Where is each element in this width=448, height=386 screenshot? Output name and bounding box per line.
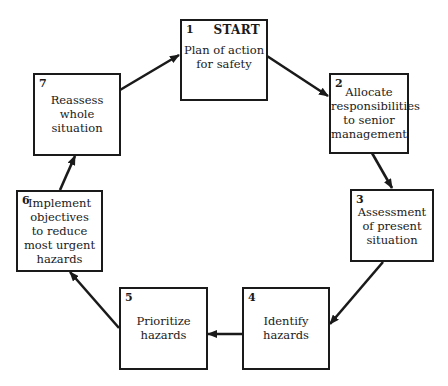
step-label: Assessment of present situation <box>352 205 432 247</box>
step-number: 4 <box>248 291 256 304</box>
arrow-1-to-2 <box>267 56 328 96</box>
arrow-6-to-7 <box>60 156 75 190</box>
arrow-7-to-1 <box>120 55 179 90</box>
step-label: Plan of action for safety <box>182 43 266 71</box>
start-label: START <box>214 23 260 37</box>
step-box-7: 7 Reassess whole situation <box>33 73 121 156</box>
step-number: 7 <box>39 77 47 90</box>
step-number: 1 <box>186 23 194 36</box>
step-label: Allocate responsibilities to senior mana… <box>331 85 407 141</box>
step-label: Prioritize hazards <box>121 314 206 342</box>
step-box-5: 5 Prioritize hazards <box>119 287 208 370</box>
arrow-2-to-3 <box>372 153 392 188</box>
arrow-5-to-6 <box>70 272 119 328</box>
step-box-4: 4 Identify hazards <box>242 287 330 370</box>
step-box-6: 6 Implement objectives to reduce most ur… <box>16 190 103 272</box>
step-box-1: 1 START Plan of action for safety <box>180 19 268 101</box>
step-label: Reassess whole situation <box>35 93 119 135</box>
step-box-2: 2 Allocate responsibilities to senior ma… <box>329 73 409 154</box>
step-label: Implement objectives to reduce most urge… <box>18 196 101 266</box>
arrow-3-to-4 <box>330 262 383 324</box>
step-box-3: 3 Assessment of present situation <box>350 189 434 262</box>
step-label: Identify hazards <box>244 314 328 342</box>
step-number: 5 <box>125 291 133 304</box>
